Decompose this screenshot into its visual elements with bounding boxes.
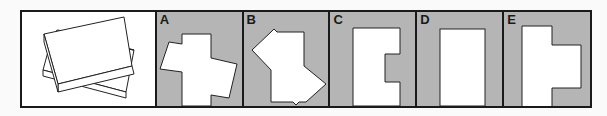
option-panel-a[interactable]: A [155,12,242,106]
irregular-polygon-shape [244,12,329,106]
option-panel-c[interactable]: C [328,12,415,106]
option-panel-d[interactable]: D [415,12,502,106]
option-panel-b[interactable]: B [242,12,329,106]
c-shape [330,12,415,106]
rotated-cross-shape [157,12,242,106]
option-panel-e[interactable]: E [502,12,590,106]
reference-panel [22,12,155,106]
rectangle-shape [417,12,502,106]
puzzle-strip: A B C D E [20,10,592,108]
t-shape [504,12,590,106]
stacked-boxes-figure [22,12,155,106]
